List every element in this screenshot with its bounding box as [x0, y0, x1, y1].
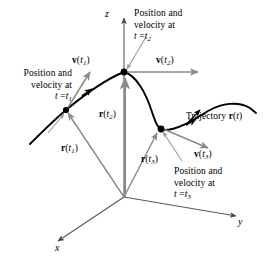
trajectory-figure: z x y Position and velocity at t =t1 Pos…	[0, 0, 264, 260]
r1-sub: 1	[71, 147, 75, 154]
x-axis	[58, 197, 124, 241]
v1-symbol: v	[72, 55, 77, 65]
annotation-t2-line3-sub: 2	[147, 35, 151, 42]
annotation-t3-line1: Position and	[174, 166, 222, 176]
r2-sub: 2	[109, 113, 113, 120]
z-axis-label: z	[105, 8, 109, 19]
annotation-t2-line2: velocity at	[134, 20, 175, 30]
r3-symbol: r	[141, 154, 145, 164]
annotation-t3-line3-sub: 3	[187, 193, 191, 200]
annotation-t3-line2: velocity at	[174, 178, 215, 188]
annotation-t1-line2: velocity at	[31, 80, 72, 90]
annotation-t2: Position and velocity at t =t2	[134, 8, 224, 43]
annotation-trajectory: Trajectory r(t)	[186, 111, 242, 123]
velocity-label-v2: v(t2)	[156, 55, 174, 67]
r1-symbol: r	[61, 143, 65, 153]
annotation-t2-line1: Position and	[134, 8, 182, 18]
r2-symbol: r	[99, 109, 103, 119]
annotation-t1-line1: Position and	[24, 68, 72, 78]
figure-canvas	[0, 0, 264, 260]
axis-group	[58, 18, 236, 241]
y-axis-label: y	[238, 216, 242, 227]
position-label-r3: r(t3)	[141, 154, 158, 166]
annotation-t1-line3-sub: 1	[69, 95, 73, 102]
t2-point-dot	[121, 69, 128, 76]
x-axis-label: x	[55, 242, 59, 253]
r3-sub: 3	[151, 158, 155, 165]
velocity-label-v1: v(t1)	[72, 55, 90, 67]
position-vector-r1	[68, 113, 124, 197]
annotation-t1: Position and velocity at t =t1	[0, 68, 72, 103]
curve-direction-arrow-1	[82, 89, 92, 96]
annotation-t3-line3-prefix: t	[174, 189, 177, 199]
velocity-label-v3: v(t3)	[194, 149, 212, 161]
v2-sub: 2	[167, 59, 171, 66]
annotation-t2-line3-prefix: t	[134, 31, 137, 41]
v2-symbol: v	[156, 55, 161, 65]
v3-symbol: v	[194, 149, 199, 159]
v3-sub: 3	[205, 153, 209, 160]
position-label-r1: r(t1)	[61, 143, 78, 155]
t1-point-dot	[63, 107, 69, 113]
annotation-t1-line3-prefix: t	[55, 91, 58, 101]
position-label-r2: r(t2)	[99, 109, 116, 121]
v1-sub: 1	[83, 59, 87, 66]
trajectory-word: Trajectory	[186, 111, 226, 121]
t3-point-dot	[158, 126, 165, 133]
annotation-t3: Position and velocity at t =t3	[174, 166, 260, 201]
velocity-vector-v3	[161, 128, 208, 148]
position-vector-group	[68, 78, 157, 197]
trajectory-arg-close: )	[239, 111, 242, 121]
